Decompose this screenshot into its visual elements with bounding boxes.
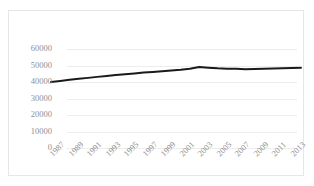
x-axis-tick-label: 1999 <box>159 140 177 158</box>
x-axis-tick-label: 1997 <box>141 140 159 158</box>
x-axis-tick-label: 2003 <box>196 140 214 158</box>
x-axis-tick-label: 2005 <box>215 140 233 158</box>
x-axis-tick-label: 2009 <box>252 140 270 158</box>
x-axis-tick-label: 2013 <box>289 140 307 158</box>
x-axis-tick-label: 2007 <box>233 140 251 158</box>
x-axis-tick-label: 1989 <box>67 140 85 158</box>
x-axis-tick-label: 1991 <box>85 140 103 158</box>
x-axis-tick-label: 1987 <box>48 140 66 158</box>
x-axis-tick-label: 2001 <box>178 140 196 158</box>
x-axis-tick-label: 1995 <box>122 140 140 158</box>
x-axis: 1987198919911993199519971999200120032005… <box>0 0 314 186</box>
x-axis-tick-label: 2011 <box>270 140 288 158</box>
x-axis-tick-label: 1993 <box>104 140 122 158</box>
